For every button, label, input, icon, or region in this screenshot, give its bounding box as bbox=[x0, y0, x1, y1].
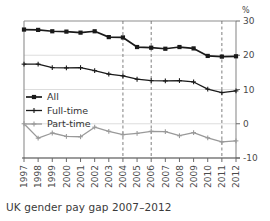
data-point bbox=[64, 30, 68, 34]
data-point bbox=[234, 54, 238, 58]
legend-label-full-time: Full-time bbox=[47, 105, 88, 116]
data-point bbox=[36, 28, 40, 32]
axis-unit-label: % bbox=[242, 6, 250, 15]
xtick-label-2002: 2002 bbox=[90, 165, 100, 188]
data-point bbox=[149, 46, 153, 50]
data-point bbox=[50, 29, 54, 33]
xtick-label-1998: 1998 bbox=[33, 165, 43, 188]
xtick-label-2012: 2012 bbox=[231, 165, 241, 188]
xtick-label-2004: 2004 bbox=[118, 165, 128, 188]
data-point bbox=[32, 95, 36, 99]
data-point bbox=[163, 47, 167, 51]
xtick-label-2005: 2005 bbox=[132, 165, 142, 188]
xtick-label-2007: 2007 bbox=[161, 165, 171, 188]
xtick-label-2006: 2006 bbox=[146, 165, 156, 188]
series-all bbox=[22, 27, 238, 58]
data-point bbox=[206, 54, 210, 58]
data-point bbox=[22, 27, 26, 31]
xtick-label-2008: 2008 bbox=[175, 165, 185, 188]
series-full-time bbox=[22, 62, 239, 95]
legend-label-all: All bbox=[47, 91, 59, 102]
ytick-label--10: -10 bbox=[243, 153, 258, 163]
data-point bbox=[220, 55, 224, 59]
data-point bbox=[177, 45, 181, 49]
xtick-label-2010: 2010 bbox=[203, 165, 213, 188]
chart-legend: AllFull-timePart-time bbox=[26, 91, 91, 129]
xtick-label-1997: 1997 bbox=[19, 165, 29, 188]
series-line-full-time bbox=[24, 64, 236, 92]
xtick-label-2003: 2003 bbox=[104, 165, 114, 188]
chart-figure: 3020100-10%19971998199920002001200220032… bbox=[0, 0, 270, 221]
ytick-label-10: 10 bbox=[243, 85, 255, 95]
data-point bbox=[78, 31, 82, 35]
data-point bbox=[93, 29, 97, 33]
data-point bbox=[192, 46, 196, 50]
xtick-label-2009: 2009 bbox=[189, 165, 199, 188]
chart-caption: UK gender pay gap 2007–2012 bbox=[6, 201, 172, 213]
xtick-label-2001: 2001 bbox=[76, 165, 86, 188]
series-line-all bbox=[24, 30, 236, 57]
ytick-label-30: 30 bbox=[243, 16, 255, 26]
ytick-label-0: 0 bbox=[243, 119, 249, 129]
xtick-label-2000: 2000 bbox=[62, 165, 72, 188]
data-point bbox=[107, 35, 111, 39]
legend-label-part-time: Part-time bbox=[47, 118, 91, 129]
data-point bbox=[135, 45, 139, 49]
line-chart: 3020100-10%19971998199920002001200220032… bbox=[0, 0, 270, 221]
data-point bbox=[121, 35, 125, 39]
xtick-label-1999: 1999 bbox=[47, 165, 57, 188]
ytick-label-20: 20 bbox=[243, 50, 255, 60]
xtick-label-2011: 2011 bbox=[217, 165, 227, 188]
